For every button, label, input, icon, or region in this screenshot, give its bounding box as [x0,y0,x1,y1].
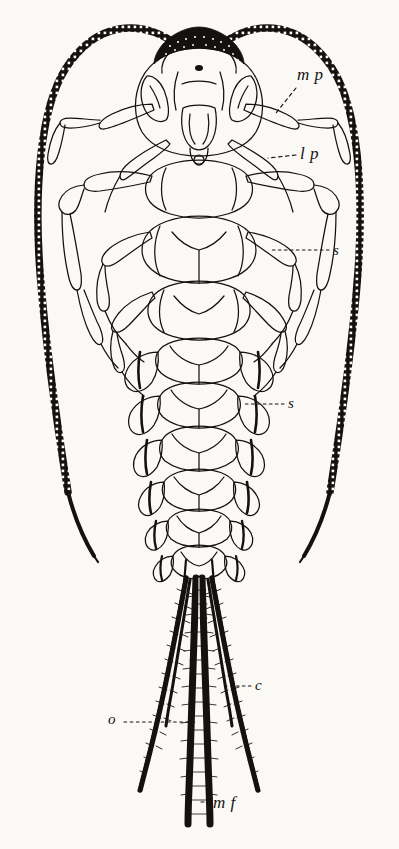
label-cercus: c [255,678,262,693]
label-median-filament: m f [213,794,236,811]
label-outer-filament: o [108,712,116,727]
illustration-plate: m p l p s s c o m f [0,0,399,849]
label-labial-palp: l p [300,145,319,162]
mayfly-nymph-figure [0,0,399,849]
label-maxillary-palp: m p [297,66,324,83]
label-spiracle-thoracic: s [333,243,339,258]
label-spiracle-abdominal: s [288,396,294,411]
